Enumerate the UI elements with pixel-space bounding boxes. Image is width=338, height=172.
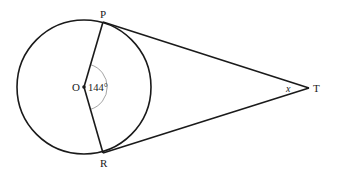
tangent-RT bbox=[103, 88, 309, 153]
radius-OP bbox=[84, 22, 103, 87]
angle-label-x: x bbox=[285, 83, 291, 94]
angle-label-POR: 144° bbox=[88, 82, 108, 93]
label-O: O bbox=[72, 81, 80, 93]
circle-tangent-diagram: O P R T 144° x bbox=[0, 0, 338, 172]
label-T: T bbox=[313, 82, 320, 94]
label-P: P bbox=[100, 8, 106, 20]
tangent-PT bbox=[103, 22, 309, 88]
center-point-O bbox=[82, 85, 86, 89]
radius-OR bbox=[84, 87, 103, 153]
label-R: R bbox=[100, 157, 108, 169]
